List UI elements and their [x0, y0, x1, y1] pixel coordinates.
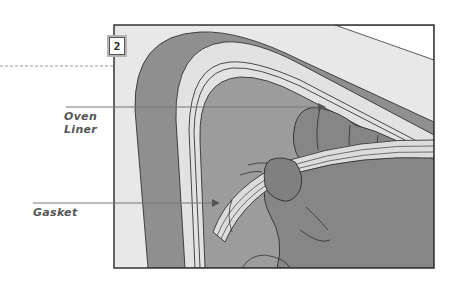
oven-liner-label-line-2: Liner — [64, 123, 97, 136]
gasket-label-line-1: Gasket — [33, 206, 77, 219]
step-number-badge: 2 — [107, 35, 127, 57]
oven-liner-label: Oven Liner — [64, 110, 97, 136]
figure-illustration — [0, 0, 458, 283]
oven-gasket-illustration — [0, 0, 458, 283]
oven-liner-label-line-1: Oven — [64, 110, 97, 123]
gasket-label: Gasket — [33, 206, 77, 219]
